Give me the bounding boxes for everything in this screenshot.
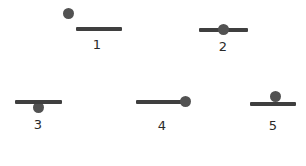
- label-5: 5: [263, 119, 283, 133]
- figure-5: 5: [0, 0, 306, 166]
- ball-5: [270, 91, 281, 102]
- bar-5: [250, 102, 296, 106]
